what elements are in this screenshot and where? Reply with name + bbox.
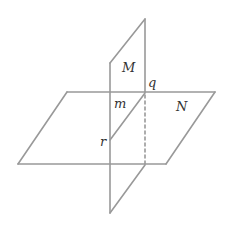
plane-n-left-edge (18, 92, 67, 164)
plane-m-upper-slant-edge (110, 19, 145, 63)
plane-m-lower-slant-edge (110, 165, 145, 213)
plane-n-right-edge (166, 92, 215, 164)
planes-diagram: M q m N r (0, 0, 229, 227)
label-plane-m: M (121, 60, 136, 75)
label-point-r: r (100, 134, 107, 149)
label-point-q: q (148, 75, 156, 90)
label-line-m: m (114, 96, 126, 111)
label-plane-n: N (175, 99, 188, 114)
